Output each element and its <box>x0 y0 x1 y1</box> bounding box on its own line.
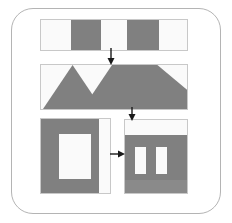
column-2 <box>156 147 167 174</box>
framed-window-panel <box>40 118 111 194</box>
figure-canvas <box>0 0 232 223</box>
arrow-down-triangles-to-block <box>127 107 137 122</box>
stripe-1 <box>41 20 71 50</box>
triangles-panel <box>40 64 188 110</box>
bottom-gray-band <box>125 180 187 194</box>
striped-bar-panel <box>40 19 188 51</box>
left-triangle <box>43 65 102 109</box>
inner-white-window <box>59 134 91 179</box>
stripe-5 <box>159 20 188 50</box>
top-white-band <box>125 120 187 135</box>
triangles-shapes <box>41 65 187 109</box>
arrow-right-block-to-block <box>110 149 126 159</box>
stripe-4 <box>127 20 159 50</box>
arrow-down-strip-to-triangles <box>106 48 116 66</box>
stripe-3 <box>101 20 127 50</box>
column-1 <box>135 147 146 174</box>
stripe-2 <box>71 20 101 50</box>
banded-columns-panel <box>124 119 188 194</box>
